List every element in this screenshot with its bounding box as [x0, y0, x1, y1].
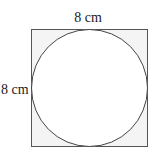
inscribed-circle-diagram: 8 cm 8 cm: [0, 0, 151, 157]
left-side-label: 8 cm: [1, 82, 29, 97]
top-side-label: 8 cm: [74, 10, 102, 25]
circle: [32, 30, 148, 147]
